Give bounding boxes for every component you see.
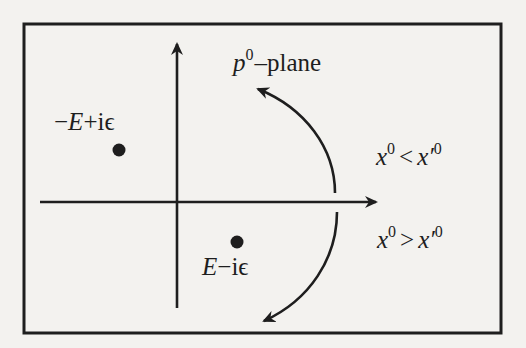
lower-pole-label-ieps: −iϵ <box>217 253 248 280</box>
upper-pole-label-minus: − <box>54 108 68 135</box>
upper-condition-lhs: x <box>375 143 387 170</box>
lower-pole-label-E: E <box>201 253 217 280</box>
upper-condition-op: < <box>399 143 413 170</box>
lower-pole-label: E−iϵ <box>201 253 248 280</box>
plane-label-suffix: –plane <box>254 49 322 76</box>
lower-contour-condition: x0>x′0 <box>376 223 443 253</box>
upper-contour-arc-arrow <box>258 89 335 193</box>
upper-pole-label-E: E <box>67 108 83 135</box>
lower-condition-op: > <box>400 226 414 253</box>
plane-label: p0–plane <box>231 46 321 76</box>
upper-condition-rhs-sup: 0 <box>434 140 442 157</box>
upper-condition-lhs-sup: 0 <box>387 140 395 157</box>
lower-condition-rhs-sup: 0 <box>435 223 443 240</box>
upper-condition-rhs: x′ <box>416 143 434 170</box>
lower-contour-arc-arrow <box>264 212 337 321</box>
lower-condition-lhs: x <box>376 226 388 253</box>
lower-pole-dot <box>231 236 244 249</box>
p0-plane-diagram: p0–plane −E+iϵ E−iϵ x0<x′0 x0>x′0 <box>0 0 526 348</box>
lower-condition-rhs: x′ <box>417 226 435 253</box>
upper-pole-label: −E+iϵ <box>54 108 115 135</box>
upper-pole-label-ieps: +iϵ <box>83 108 114 135</box>
upper-contour-condition: x0<x′0 <box>375 140 442 170</box>
plane-label-superscript: 0 <box>246 46 254 63</box>
lower-condition-lhs-sup: 0 <box>388 223 396 240</box>
plane-label-base: p <box>231 49 246 76</box>
upper-pole-dot <box>113 144 126 157</box>
